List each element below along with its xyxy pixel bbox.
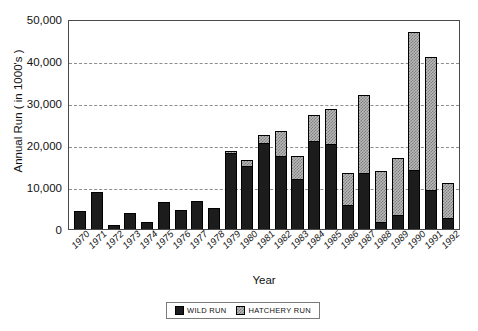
- bar-segment-hatchery-run[interactable]: [325, 109, 337, 144]
- bar-segment-wild-run[interactable]: [425, 190, 437, 229]
- bar-column[interactable]: [306, 21, 323, 229]
- plot-area: [68, 20, 460, 230]
- bar-segment-hatchery-run[interactable]: [258, 135, 270, 143]
- bar-segment-wild-run[interactable]: [258, 143, 270, 229]
- bar-column[interactable]: [323, 21, 340, 229]
- bar-column[interactable]: [339, 21, 356, 229]
- bar-stack[interactable]: [74, 211, 86, 229]
- bar-segment-wild-run[interactable]: [158, 202, 170, 229]
- x-axis-tick-cell: 1989: [390, 231, 407, 273]
- bar-column[interactable]: [389, 21, 406, 229]
- bar-stack[interactable]: [275, 131, 287, 229]
- y-axis-tick-label: 0: [56, 224, 62, 236]
- bar-segment-wild-run[interactable]: [225, 153, 237, 229]
- bar-column[interactable]: [172, 21, 189, 229]
- bar-column[interactable]: [406, 21, 423, 229]
- bar-segment-hatchery-run[interactable]: [275, 131, 287, 156]
- bar-column[interactable]: [239, 21, 256, 229]
- bar-column[interactable]: [289, 21, 306, 229]
- bar-stack[interactable]: [408, 32, 420, 229]
- x-axis-tick-cell: 1980: [239, 231, 256, 273]
- chart-legend: WILD RUN HATCHERY RUN: [166, 302, 320, 319]
- x-axis-tick-cell: 1975: [155, 231, 172, 273]
- bar-stack[interactable]: [158, 202, 170, 229]
- bar-column[interactable]: [356, 21, 373, 229]
- bar-column[interactable]: [89, 21, 106, 229]
- bar-column[interactable]: [206, 21, 223, 229]
- bar-segment-wild-run[interactable]: [74, 211, 86, 229]
- bar-column[interactable]: [373, 21, 390, 229]
- bar-segment-wild-run[interactable]: [291, 179, 303, 229]
- legend-label-wild-run: WILD RUN: [187, 306, 226, 315]
- bar-stack[interactable]: [308, 115, 320, 229]
- bar-stack[interactable]: [208, 208, 220, 229]
- bar-segment-wild-run[interactable]: [325, 144, 337, 229]
- bar-stack[interactable]: [342, 173, 354, 229]
- y-axis-tick-label: 20,000: [27, 140, 62, 152]
- x-axis-tick-cell: 1988: [373, 231, 390, 273]
- x-axis-tick-cell: 1978: [205, 231, 222, 273]
- bar-segment-hatchery-run[interactable]: [408, 32, 420, 171]
- bar-column[interactable]: [139, 21, 156, 229]
- bar-column[interactable]: [222, 21, 239, 229]
- bar-column[interactable]: [439, 21, 456, 229]
- bar-column[interactable]: [423, 21, 440, 229]
- bar-segment-wild-run[interactable]: [408, 170, 420, 229]
- bar-stack[interactable]: [375, 171, 387, 229]
- x-axis-tick-cell: 1991: [423, 231, 440, 273]
- x-axis-tick-cell: 1992: [440, 231, 457, 273]
- bar-stack[interactable]: [392, 158, 404, 229]
- x-axis-tick-cell: 1970: [71, 231, 88, 273]
- bar-stack[interactable]: [225, 151, 237, 229]
- x-axis-tick-cell: 1972: [105, 231, 122, 273]
- x-axis-tick-cell: 1986: [340, 231, 357, 273]
- bar-segment-wild-run[interactable]: [342, 205, 354, 229]
- bar-column[interactable]: [256, 21, 273, 229]
- legend-item-hatchery-run: HATCHERY RUN: [236, 306, 310, 315]
- bar-column[interactable]: [272, 21, 289, 229]
- legend-label-hatchery-run: HATCHERY RUN: [248, 306, 310, 315]
- bar-segment-wild-run[interactable]: [124, 213, 136, 229]
- bar-segment-wild-run[interactable]: [275, 156, 287, 230]
- bar-segment-hatchery-run[interactable]: [358, 95, 370, 174]
- bar-segment-hatchery-run[interactable]: [425, 57, 437, 190]
- bar-segment-wild-run[interactable]: [191, 201, 203, 229]
- bar-stack[interactable]: [91, 192, 103, 229]
- bar-segment-wild-run[interactable]: [442, 218, 454, 229]
- bar-segment-hatchery-run[interactable]: [291, 156, 303, 178]
- chart-figure: Annual Run ( in 1000's ) 010,00020,00030…: [0, 0, 478, 331]
- bar-segment-hatchery-run[interactable]: [392, 158, 404, 216]
- bar-segment-wild-run[interactable]: [358, 173, 370, 229]
- bar-stack[interactable]: [258, 135, 270, 229]
- y-axis-tick-label: 50,000: [27, 14, 62, 26]
- bar-segment-wild-run[interactable]: [208, 208, 220, 229]
- bar-segment-wild-run[interactable]: [392, 215, 404, 229]
- bar-stack[interactable]: [425, 57, 437, 229]
- bar-segment-hatchery-run[interactable]: [442, 183, 454, 218]
- bar-stack[interactable]: [442, 183, 454, 229]
- bar-series-group: [69, 21, 459, 229]
- bar-segment-hatchery-run[interactable]: [375, 171, 387, 223]
- bar-segment-wild-run[interactable]: [241, 166, 253, 229]
- bar-stack[interactable]: [191, 201, 203, 229]
- bar-stack[interactable]: [124, 213, 136, 229]
- bar-column[interactable]: [122, 21, 139, 229]
- bar-column[interactable]: [105, 21, 122, 229]
- bar-stack[interactable]: [175, 210, 187, 229]
- bar-segment-wild-run[interactable]: [91, 192, 103, 229]
- legend-swatch-wild-run: [175, 306, 184, 315]
- bar-stack[interactable]: [291, 156, 303, 229]
- bar-stack[interactable]: [325, 109, 337, 229]
- y-axis-tick-label: 30,000: [27, 98, 62, 110]
- bar-segment-wild-run[interactable]: [175, 210, 187, 229]
- x-axis-tick-cell: 1984: [306, 231, 323, 273]
- bar-column[interactable]: [189, 21, 206, 229]
- bar-column[interactable]: [156, 21, 173, 229]
- bar-segment-hatchery-run[interactable]: [342, 173, 354, 206]
- bar-segment-hatchery-run[interactable]: [308, 115, 320, 141]
- bar-segment-wild-run[interactable]: [308, 141, 320, 229]
- x-axis-tick-cell: 1976: [172, 231, 189, 273]
- bar-column[interactable]: [72, 21, 89, 229]
- bar-stack[interactable]: [241, 160, 253, 229]
- bar-stack[interactable]: [358, 95, 370, 229]
